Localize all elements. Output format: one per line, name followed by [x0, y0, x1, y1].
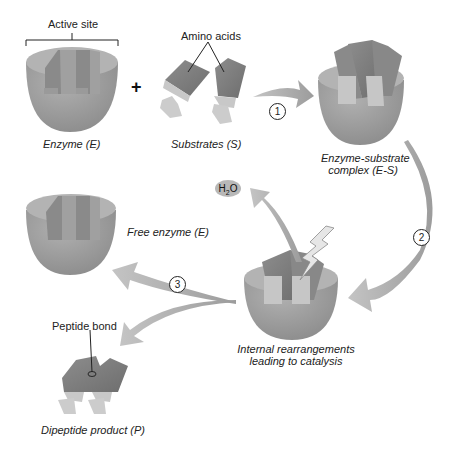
step-1-badge: 1	[269, 103, 286, 120]
free-enzyme-shape	[26, 194, 116, 275]
h2o-h: H	[219, 183, 226, 194]
substrates-label: Substrates (S)	[171, 138, 241, 150]
peptide-bond-label: Peptide bond	[52, 320, 117, 332]
substrate-amino-acid-1	[160, 60, 210, 118]
internal-rearrangements-label: Internal rearrangements leading to catal…	[236, 343, 356, 367]
es-complex-label: Enzyme-substrate complex (E-S)	[321, 152, 405, 176]
water-release-arrow	[250, 188, 302, 262]
internal-label-line1: Internal rearrangements	[236, 343, 356, 355]
step-1-arrow	[253, 80, 314, 108]
step-2-badge: 2	[413, 229, 430, 246]
step-3-badge: 3	[169, 276, 186, 293]
enzyme-shape	[26, 47, 118, 132]
catalysis-complex-shape	[244, 250, 338, 340]
h2o-o: O	[230, 183, 238, 194]
internal-label-line2: leading to catalysis	[236, 355, 356, 367]
diagram-canvas	[0, 0, 463, 453]
active-site-label: Active site	[48, 18, 98, 30]
dipeptide-shape	[58, 356, 128, 414]
enzyme-label: Enzyme (E)	[43, 138, 100, 150]
substrate-amino-acid-2	[212, 58, 246, 124]
amino-acids-label: Amino acids	[181, 30, 241, 42]
step-3-arrow-to-product	[120, 300, 236, 346]
water-molecule-badge: H2O	[215, 180, 241, 197]
dipeptide-label: Dipeptide product (P)	[41, 424, 145, 436]
active-site-bracket	[26, 33, 118, 46]
es-complex-label-line2: complex (E-S)	[321, 164, 405, 176]
plus-sign: +	[131, 77, 142, 98]
free-enzyme-label: Free enzyme (E)	[127, 226, 209, 238]
es-complex-shape	[318, 40, 404, 145]
es-complex-label-line1: Enzyme-substrate	[321, 152, 405, 164]
